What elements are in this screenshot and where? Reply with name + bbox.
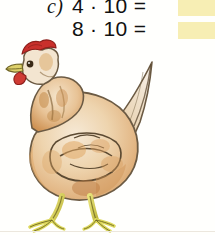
exercise-expression: 4 · 10 = bbox=[72, 0, 146, 18]
hen-foot-front bbox=[30, 220, 64, 231]
worksheet-fragment: c) 4 · 10 = 8 · 10 = bbox=[0, 0, 215, 235]
hen-foot-back bbox=[84, 220, 114, 231]
answer-box[interactable] bbox=[178, 0, 215, 16]
exercise-row: c) 4 · 10 = bbox=[0, 0, 215, 18]
hen-head bbox=[6, 40, 58, 85]
exercise-label: c) bbox=[47, 0, 63, 18]
hen-illustration bbox=[0, 38, 180, 233]
bottom-rule bbox=[0, 231, 215, 232]
answer-box[interactable] bbox=[178, 22, 215, 39]
hen-legs bbox=[30, 196, 114, 231]
hen-eye bbox=[27, 61, 34, 68]
